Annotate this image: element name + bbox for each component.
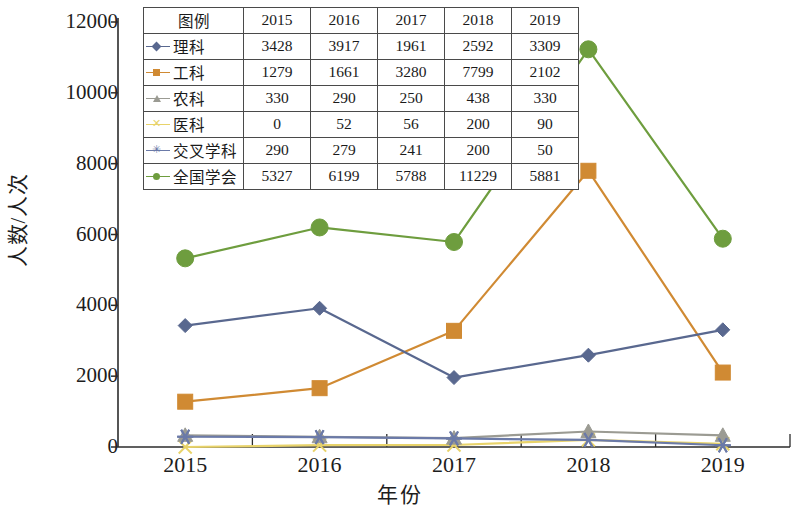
legend-header-cell-year: 2019 <box>512 8 579 34</box>
legend-header-cell-year: 2015 <box>244 8 311 34</box>
legend-table-row: ✳交叉学科29027924120050 <box>144 138 579 164</box>
legend-table-row: ✕医科0525620090 <box>144 112 579 138</box>
legend-marker-icon <box>146 41 170 52</box>
legend-value-cell: 438 <box>445 86 512 112</box>
legend-value-cell: 7799 <box>445 60 512 86</box>
legend-table-body: 理科34283917196125923309工科1279166132807799… <box>144 34 579 190</box>
data-point-marker <box>714 230 731 247</box>
legend-value-cell: 5327 <box>244 164 311 190</box>
legend-value-cell: 1661 <box>311 60 378 86</box>
legend-value-cell: 6199 <box>311 164 378 190</box>
series-line <box>185 308 723 377</box>
legend-value-cell: 11229 <box>445 164 512 190</box>
legend-table-row: 全国学会532761995788112295881 <box>144 164 579 190</box>
data-point-marker <box>313 301 327 315</box>
legend-table-row: 农科330290250438330 <box>144 86 579 112</box>
series-line <box>185 171 723 402</box>
legend-header-cell-year: 2017 <box>378 8 445 34</box>
legend-series-name: 工科 <box>173 61 205 83</box>
data-point-marker <box>312 381 327 396</box>
legend-marker-icon <box>146 67 170 78</box>
legend-label-cell: 理科 <box>144 34 244 60</box>
line-chart: 人数/人次 120001000080006000400020000 201520… <box>0 0 800 511</box>
legend-value-cell: 279 <box>311 138 378 164</box>
legend-value-cell: 2102 <box>512 60 579 86</box>
legend-value-cell: 200 <box>445 112 512 138</box>
legend-header-cell-year: 2018 <box>445 8 512 34</box>
legend-marker-icon: ✳ <box>146 145 170 156</box>
legend-value-cell: 2592 <box>445 34 512 60</box>
legend-label-cell: ✳交叉学科 <box>144 138 244 164</box>
legend-value-cell: 3428 <box>244 34 311 60</box>
legend-value-cell: 52 <box>311 112 378 138</box>
data-point-marker <box>177 250 194 267</box>
legend-series-name: 全国学会 <box>173 165 237 187</box>
legend-value-cell: 5881 <box>512 164 579 190</box>
legend-value-cell: 200 <box>445 138 512 164</box>
legend-value-cell: 3280 <box>378 60 445 86</box>
legend-value-cell: 330 <box>512 86 579 112</box>
legend-value-cell: 56 <box>378 112 445 138</box>
legend-data-table: 图例20152016201720182019 理科342839171961259… <box>143 7 579 190</box>
legend-value-cell: 3917 <box>311 34 378 60</box>
legend-value-cell: 250 <box>378 86 445 112</box>
legend-value-cell: 290 <box>244 138 311 164</box>
legend-series-name: 交叉学科 <box>173 139 237 161</box>
legend-marker-icon <box>146 93 170 104</box>
legend-value-cell: 3309 <box>512 34 579 60</box>
data-point-marker <box>581 163 596 178</box>
legend-value-cell: 90 <box>512 112 579 138</box>
legend-series-name: 理科 <box>173 35 205 57</box>
legend-series-name: 农科 <box>173 87 205 109</box>
data-point-marker <box>446 234 463 251</box>
legend-value-cell: 241 <box>378 138 445 164</box>
legend-value-cell: 1279 <box>244 60 311 86</box>
legend-label-cell: 全国学会 <box>144 164 244 190</box>
legend-table-row: 理科34283917196125923309 <box>144 34 579 60</box>
legend-label-cell: 工科 <box>144 60 244 86</box>
legend-value-cell: 330 <box>244 86 311 112</box>
data-point-marker <box>581 348 595 362</box>
data-point-marker <box>580 41 597 58</box>
legend-table-row: 工科12791661328077992102 <box>144 60 579 86</box>
legend-value-cell: 5788 <box>378 164 445 190</box>
series-0 <box>178 301 730 384</box>
legend-series-name: 医科 <box>173 113 205 135</box>
legend-marker-icon: ✕ <box>146 119 170 130</box>
data-point-marker <box>178 394 193 409</box>
legend-header-cell-label: 图例 <box>144 8 244 34</box>
legend-value-cell: 50 <box>512 138 579 164</box>
legend-label-cell: 农科 <box>144 86 244 112</box>
legend-marker-icon <box>146 171 170 182</box>
legend-value-cell: 290 <box>311 86 378 112</box>
legend-header-cell-year: 2016 <box>311 8 378 34</box>
data-point-marker <box>715 365 730 380</box>
legend-table-header-row: 图例20152016201720182019 <box>144 8 579 34</box>
data-point-marker <box>311 219 328 236</box>
data-point-marker <box>178 319 192 333</box>
legend-label-cell: ✕医科 <box>144 112 244 138</box>
legend-value-cell: 0 <box>244 112 311 138</box>
data-point-marker <box>447 323 462 338</box>
data-point-marker <box>716 323 730 337</box>
legend-value-cell: 1961 <box>378 34 445 60</box>
data-point-marker <box>447 371 461 385</box>
